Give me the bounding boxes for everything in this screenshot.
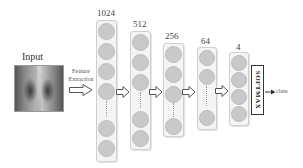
neuron-node [165,86,182,103]
neuron-node [98,83,115,100]
neuron-node [98,120,115,137]
neuron-node [231,72,247,88]
neuron-node [132,54,149,71]
hollow-arrow-icon [69,84,93,96]
extraction-label: Extraction [66,75,96,83]
hollow-arrow-icon [149,86,163,98]
neuron-node [98,43,115,60]
neuron-node [132,34,149,51]
neuron-node [165,66,182,83]
neuron-node [132,74,149,91]
chest-xray-image [14,65,64,112]
layer-1024-column [96,20,117,162]
neuron-node [132,130,149,147]
softmax-box: SOFTMAX [251,65,264,115]
neuron-node [98,63,115,80]
hollow-arrow-icon [116,86,130,98]
layer-5-units: 4 [236,42,241,52]
neuron-node [98,23,115,40]
neuron-node [132,111,149,128]
neuron-node [199,50,215,66]
output-arrow-icon [265,89,276,95]
cnn-architecture-diagram: Input Feature Extraction 1024 512 256 [0,0,303,168]
softmax-label: SOFTMAX [254,71,262,110]
layer-4-column [229,52,249,126]
neuron-node [98,140,115,157]
layer-2-units: 512 [133,19,147,29]
neuron-node [165,118,182,135]
ellipsis-dots [206,86,207,106]
layer-512-column [130,31,151,150]
ellipsis-dots [173,103,174,117]
neuron-node [199,110,215,126]
neuron-node [199,69,215,85]
layer-1-units: 1024 [97,8,115,18]
neuron-node [165,46,182,63]
ellipsis-dots [106,101,107,117]
layer-256-column [163,43,184,137]
input-label: Input [22,51,43,62]
layer-3-units: 256 [165,31,179,41]
ellipsis-dots [140,92,141,108]
layer-4-units: 64 [201,36,210,46]
output-class-label: class [276,88,288,94]
feature-label: Feature [66,67,96,75]
feature-extraction-label: Feature Extraction [66,67,96,83]
hollow-arrow-icon [215,85,229,97]
hollow-arrow-icon [182,86,196,98]
neuron-node [231,106,247,122]
neuron-node [231,89,247,105]
layer-64-column [197,47,217,130]
neuron-node [231,55,247,71]
